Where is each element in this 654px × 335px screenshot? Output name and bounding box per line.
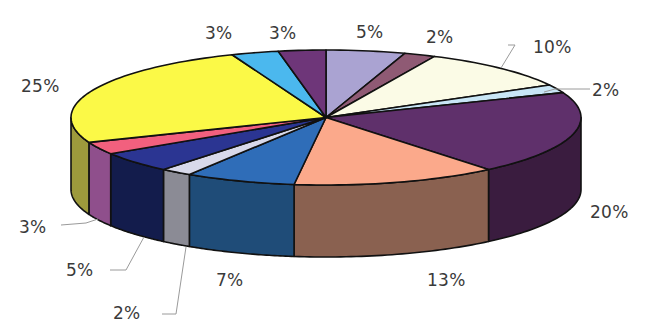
slice-label: 3% bbox=[269, 23, 297, 43]
leader-line-3 bbox=[110, 237, 144, 270]
slice-label: 20% bbox=[590, 202, 629, 222]
slice-label: 2% bbox=[592, 80, 620, 100]
slice-label: 7% bbox=[216, 270, 244, 290]
slice-label: 2% bbox=[426, 27, 454, 47]
pie-top-faces bbox=[71, 50, 581, 185]
slice-label: 3% bbox=[19, 217, 47, 237]
leader-line-4 bbox=[162, 247, 186, 314]
slice-label: 2% bbox=[113, 303, 141, 323]
leader-line-0 bbox=[501, 45, 515, 68]
pie-side-6 bbox=[189, 174, 294, 256]
slice-label: 13% bbox=[427, 270, 466, 290]
pie-side-9 bbox=[89, 142, 111, 225]
slice-label: 5% bbox=[66, 260, 94, 280]
slice-label: 5% bbox=[356, 22, 384, 42]
leader-line-2 bbox=[61, 219, 98, 225]
pie-side-7 bbox=[163, 170, 189, 247]
slice-label: 25% bbox=[21, 76, 60, 96]
slice-label: 3% bbox=[205, 23, 233, 43]
slice-label: 10% bbox=[533, 37, 572, 57]
